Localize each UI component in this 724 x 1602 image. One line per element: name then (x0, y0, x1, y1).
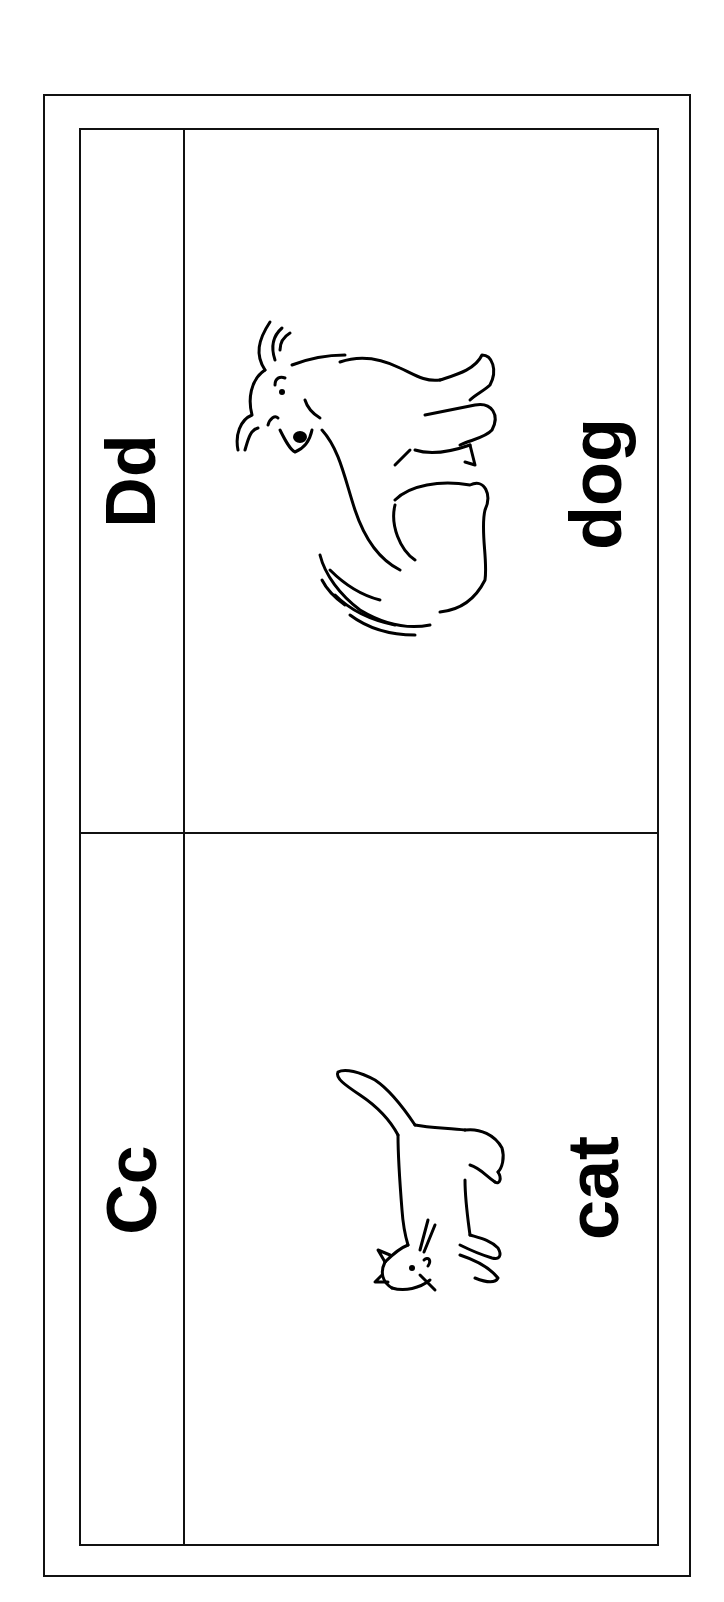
row-divider (79, 832, 659, 834)
column-divider (183, 128, 185, 1546)
word-dog: dog (560, 418, 632, 550)
dog-illustration (230, 300, 510, 640)
cat-illustration (320, 1010, 510, 1290)
letter-pair-dd: Dd (96, 434, 166, 527)
letter-pair-cc: Cc (97, 1145, 167, 1234)
word-cat: cat (557, 1136, 629, 1240)
